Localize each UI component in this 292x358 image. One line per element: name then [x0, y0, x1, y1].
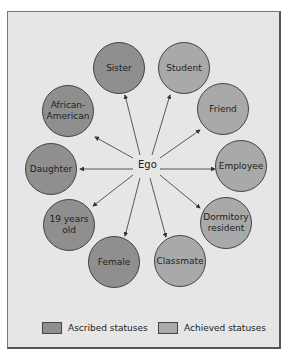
node-daughter: Daughter: [25, 143, 77, 195]
node-student: Student: [158, 42, 210, 94]
achieved-swatch: [158, 322, 178, 334]
node-employee: Employee: [215, 140, 267, 192]
ascribed-swatch: [42, 322, 62, 334]
ego-label: Ego: [136, 159, 159, 170]
node-sister: Sister: [93, 42, 145, 94]
node-dormitory-resident: Dormitory resident: [200, 197, 252, 249]
node-19-years-old: 19 years old: [43, 199, 95, 251]
node-female: Female: [88, 236, 140, 288]
node-classmate: Classmate: [154, 235, 206, 287]
node-friend: Friend: [197, 83, 249, 135]
legend-achieved: Achieved statuses: [158, 322, 266, 334]
legend-ascribed: Ascribed statuses: [42, 322, 148, 334]
node-african-american: African- American: [42, 85, 94, 137]
